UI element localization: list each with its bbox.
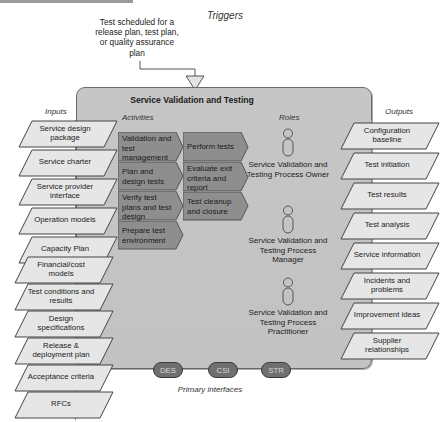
- activity-test-cleanup-and-closure: Test cleanup and closure: [183, 192, 249, 221]
- person-icon: [281, 128, 295, 158]
- top-bar: [0, 0, 133, 3]
- input-release-deployment-plan: Release & deployment plan: [14, 337, 108, 363]
- triggers-label: Triggers: [200, 10, 250, 21]
- interface-str: STR: [261, 362, 291, 378]
- output-test-results: Test results: [340, 182, 434, 208]
- output-test-initiation: Test initiation: [340, 152, 434, 178]
- role-process-owner: Service Validation and Testing Process O…: [243, 160, 333, 179]
- output-supplier-relationships: Supplier relationships: [340, 332, 434, 358]
- interface-csi: CSI: [208, 362, 238, 378]
- activity-verify-test-plans: Verify test plans and test design: [118, 191, 184, 221]
- role-process-practitioner: Service Validation and Testing Process P…: [243, 308, 333, 337]
- outputs-label: Outputs: [385, 107, 413, 116]
- input-rfcs: RFCs: [14, 391, 108, 417]
- output-incidents-and-problems: Incidents and problems: [340, 272, 434, 298]
- roles-label: Roles: [279, 113, 299, 122]
- activity-validation-and-test-management: Validation and test management: [118, 132, 184, 162]
- input-service-charter: Service charter: [18, 149, 112, 175]
- output-improvement-ideas: Improvement ideas: [340, 302, 434, 328]
- inputs-label: Inputs: [45, 107, 67, 116]
- output-test-analysis: Test analysis: [340, 212, 434, 238]
- person-icon: [281, 277, 295, 307]
- input-acceptance-criteria: Acceptance criteria: [14, 364, 108, 390]
- input-service-provider-interface: Service provider interface: [18, 178, 112, 204]
- activity-plan-and-design-tests: Plan and design tests: [118, 162, 184, 191]
- input-operation-models: Operation models: [18, 207, 112, 233]
- activities-label: Activities: [122, 113, 154, 122]
- process-title: Service Validation and Testing: [112, 95, 272, 105]
- role-process-manager: Service Validation and Testing Process M…: [243, 236, 333, 265]
- activity-prepare-test-environment: Prepare test environment: [118, 221, 184, 250]
- input-service-design-package: Service design package: [18, 120, 112, 146]
- activity-perform-tests: Perform tests: [183, 132, 249, 162]
- trigger-description: Test scheduled for a release plan, test …: [92, 17, 182, 58]
- primary-interfaces-label: Primary interfaces: [150, 385, 270, 394]
- person-icon: [281, 205, 295, 235]
- input-test-conditions-and-results: Test conditions and results: [14, 283, 108, 309]
- input-design-specifications: Design specifications: [14, 310, 108, 336]
- output-configuration-baseline: Configuration baseline: [340, 122, 434, 148]
- interface-des: DES: [153, 362, 183, 378]
- output-service-information: Service information: [340, 242, 434, 268]
- activity-evaluate-exit-criteria: Evaluate exit criteria and report: [183, 162, 249, 192]
- input-financial-cost-models: Financial/cost models: [14, 256, 108, 282]
